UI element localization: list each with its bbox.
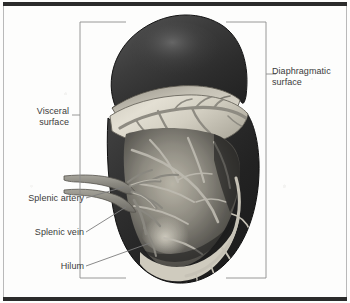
lower-body-group bbox=[107, 95, 259, 294]
page-border-right bbox=[346, 6, 347, 297]
page-border-left bbox=[3, 6, 4, 297]
label-splenic-vein: Splenic vein bbox=[0, 227, 84, 238]
page-rule-top bbox=[3, 2, 347, 6]
label-splenic-artery: Splenic artery bbox=[0, 193, 84, 204]
label-hilum: Hilum bbox=[0, 261, 84, 272]
upper-lobe-highlight bbox=[130, 22, 222, 82]
label-diaphragmatic-surface: Diaphragmatic surface bbox=[272, 66, 331, 87]
spleen-anatomy-figure: Diaphragmatic surface Visceral surface S… bbox=[0, 0, 350, 303]
page-rule-bottom bbox=[3, 297, 347, 301]
spleen-illustration bbox=[0, 0, 350, 303]
pulp-glow bbox=[138, 194, 206, 254]
label-visceral-surface: Visceral surface bbox=[0, 106, 69, 127]
